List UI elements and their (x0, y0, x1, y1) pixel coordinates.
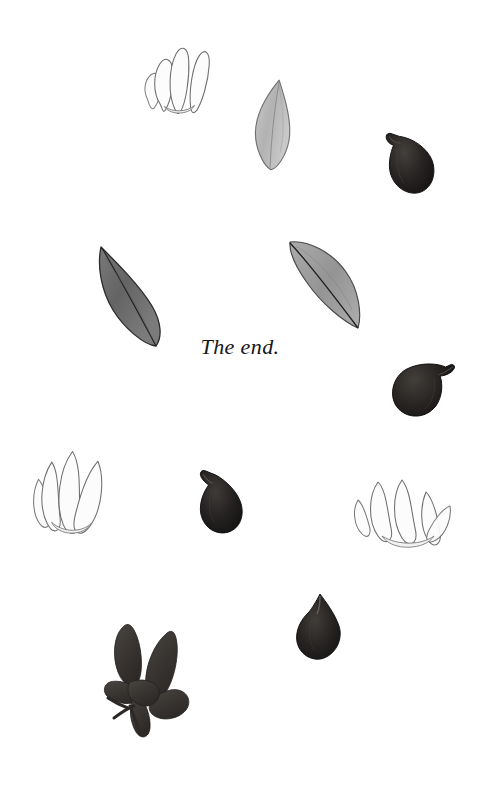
dark-fig-fruit-bottom (290, 592, 350, 662)
white-flower-cluster-left (26, 431, 129, 545)
dark-fig-leaf-silhouette (100, 614, 208, 740)
gray-leaf-diagonal-right (282, 234, 368, 334)
dark-fig-fruit-top-right (378, 122, 443, 201)
illustrated-page: The end. (0, 0, 480, 795)
white-flower-fan-cluster-right (352, 470, 458, 556)
white-flower-cluster-top (134, 38, 222, 128)
light-leaf-upright (245, 76, 305, 174)
end-text: The end. (0, 334, 480, 360)
dark-fig-fruit-center (190, 464, 253, 540)
